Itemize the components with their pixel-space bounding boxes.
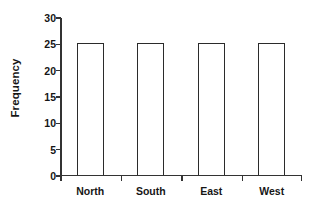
x-tick-mark [121,176,123,181]
y-tick-mark [56,96,61,98]
y-tick-label: 0 [32,171,56,182]
y-tick-label: 15 [32,92,56,103]
y-tick-mark [56,44,61,46]
plot-area [60,18,302,176]
bar [77,43,104,175]
x-tick-label: East [200,186,222,197]
y-tick-mark [56,17,61,19]
bar [198,43,225,175]
y-axis-title-text: Frequency [9,58,21,117]
y-tick-label: 20 [32,66,56,77]
y-axis-tick-labels: 051015202530 [30,0,56,203]
y-tick-mark [56,123,61,125]
y-tick-mark [56,70,61,72]
bar-chart: Frequency 051015202530 NorthSouthEastWes… [0,0,313,203]
y-tick-mark [56,149,61,151]
y-tick-label: 30 [32,13,56,24]
y-tick-label: 25 [32,39,56,50]
x-tick-mark [181,176,183,181]
bar [258,43,285,175]
x-tick-label: West [259,186,284,197]
y-tick-label: 10 [32,118,56,129]
x-tick-label: North [76,186,104,197]
x-tick-label: South [136,186,166,197]
x-tick-mark [242,176,244,181]
x-tick-mark [301,176,303,181]
y-axis-title: Frequency [6,0,24,176]
x-tick-mark [60,176,62,181]
y-tick-label: 5 [32,145,56,156]
bar [137,43,164,175]
